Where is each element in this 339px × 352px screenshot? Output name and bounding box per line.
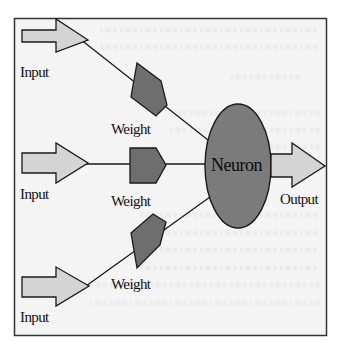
output-label: Output (280, 191, 320, 207)
input-label-middle: Input (20, 186, 50, 202)
weights (130, 63, 167, 268)
input-label-bottom: Input (20, 309, 50, 325)
neuron-diagram: Input Input Input Weight Weight Weight N… (0, 0, 339, 352)
weight-label-middle: Weight (111, 193, 152, 209)
weight-label-bottom: Weight (111, 276, 152, 292)
weight-label-top: Weight (111, 121, 152, 137)
input-label-top: Input (20, 64, 50, 80)
neuron-label: Neuron (211, 155, 262, 175)
